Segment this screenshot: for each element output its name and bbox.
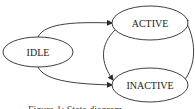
state-diagram: IDLE ACTIVE INACTIVE Figure 1: State dia… [0,0,195,109]
node-active: ACTIVE [112,6,188,40]
edge-idle-to-inactive [38,67,112,85]
edge-idle-to-active [38,23,112,37]
figure-caption: Figure 1: State diagram [28,104,122,109]
node-inactive-label: INACTIVE [126,80,173,91]
node-inactive: INACTIVE [112,68,188,102]
node-active-label: ACTIVE [132,18,169,29]
edge-active-to-inactive [103,30,115,80]
node-idle: IDLE [3,37,73,67]
node-idle-label: IDLE [27,47,50,58]
